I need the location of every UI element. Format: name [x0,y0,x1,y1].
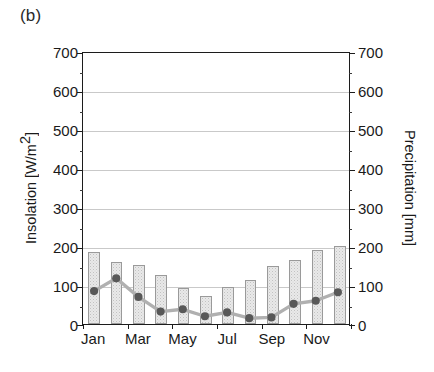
x-axis-tick-label-sep: Sep [258,330,285,347]
plot-area: Jan: 85 mmFeb: 118 mmMar: 70 mmApr: 32 m… [82,52,350,325]
axis-tick-minor [349,190,352,191]
y-axis-left-tick-label: 100 [32,278,78,295]
axis-tick-minor [349,112,352,113]
axis-tick-minor [80,268,83,269]
x-axis-tick [217,324,218,329]
bar-jun [200,296,212,324]
axis-tick-minor [80,190,83,191]
bar-feb [111,262,123,324]
axis-tick-minor [80,73,83,74]
axis-tick [349,170,355,171]
axis-tick-minor [349,268,352,269]
x-axis-tick [351,324,352,329]
x-axis-tick [306,324,307,329]
x-axis-tick-label-nov: Nov [303,330,330,347]
y-axis-left-tick-label: 600 [32,83,78,100]
gridline [83,170,349,171]
axis-tick-minor [349,73,352,74]
x-axis-tick-label-jul: Jul [218,330,237,347]
bar-apr [155,275,167,324]
precipitation-line [94,278,338,318]
y-axis-left-title-superscript: 2 [17,137,33,145]
bar-jan [88,252,100,324]
panel-label: (b) [20,6,41,26]
x-axis-tick [262,324,263,329]
y-axis-left-tick-label: 200 [32,239,78,256]
axis-tick [349,92,355,93]
y-axis-left-tick-label: 0 [32,317,78,334]
y-axis-left-tick-label: 300 [32,200,78,217]
x-axis-tick-label-mar: Mar [125,330,151,347]
axis-tick [349,248,355,249]
y-axis-right-tick-label: 700 [358,44,404,61]
y-axis-right-tick-label: 600 [358,83,404,100]
bar-jul [222,287,234,324]
gridline [83,287,349,288]
axis-tick [349,53,355,54]
x-axis-tick [128,324,129,329]
bar-oct [289,260,301,324]
x-axis-tick-label-jan: Jan [81,330,105,347]
axis-tick-minor [80,112,83,113]
y-axis-left-tick-label: 500 [32,122,78,139]
axis-tick-minor [80,229,83,230]
y-axis-right-title-text: Precipitation [mm] [402,130,418,246]
axis-tick [349,325,355,326]
figure-panel-b: (b) Insolation [W/m2] Precipitation [mm]… [0,0,434,372]
gridline [83,131,349,132]
line-series-precipitation: Jan: 85 mmFeb: 118 mmMar: 70 mmApr: 32 m… [83,53,349,324]
axis-tick-minor [80,151,83,152]
y-axis-right-tick-label: 200 [358,239,404,256]
y-axis-right-tick-label: 300 [358,200,404,217]
x-axis-tick [83,324,84,329]
axis-tick [349,287,355,288]
x-axis-tick-label-may: May [168,330,196,347]
bar-may [178,288,190,324]
bar-sep [267,266,279,324]
y-axis-right-tick-label: 0 [358,317,404,334]
axis-tick-minor [349,307,352,308]
bar-aug [245,280,257,324]
gridline [83,248,349,249]
gridline [83,209,349,210]
bar-dec [334,246,346,324]
axis-tick [349,131,355,132]
y-axis-left-tick-label: 700 [32,44,78,61]
y-axis-right-tick-label: 400 [358,161,404,178]
x-axis-tick [172,324,173,329]
axis-tick-minor [349,229,352,230]
bar-nov [312,250,324,324]
axis-tick-minor [80,307,83,308]
gridline [83,92,349,93]
bar-mar [133,265,145,324]
axis-tick [349,209,355,210]
y-axis-left-tick-label: 400 [32,161,78,178]
y-axis-right-tick-label: 500 [358,122,404,139]
y-axis-right-tick-label: 100 [358,278,404,295]
axis-tick-minor [349,151,352,152]
